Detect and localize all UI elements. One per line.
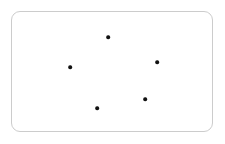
scatter-point	[95, 106, 99, 110]
scatter-point	[106, 35, 110, 39]
scatter-point	[155, 60, 159, 64]
scatter-point	[68, 65, 72, 69]
canvas-root	[0, 0, 225, 144]
scatter-point	[143, 97, 147, 101]
rounded-rectangle-card	[11, 11, 213, 132]
dot-scatter-field	[12, 12, 212, 131]
